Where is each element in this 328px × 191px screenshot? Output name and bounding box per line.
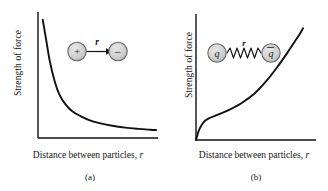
y-axis-label-b: Strength of force — [184, 10, 194, 120]
x-axis-label-var-a: r — [139, 150, 143, 160]
panel-caption-a: (a) — [8, 172, 172, 182]
plot-a — [0, 0, 164, 150]
x-axis-label-var-b: r — [305, 150, 309, 160]
panel-caption-b: (b) — [174, 172, 328, 182]
particle-negative-label-a: − — [115, 45, 122, 59]
inset-diagram-a: r + − — [0, 34, 164, 74]
particle-quark-label-b: q — [215, 48, 220, 59]
particle-positive-label-a: + — [74, 45, 80, 57]
x-axis-label-a: Distance between particles, r — [6, 150, 170, 160]
spring-connector-b — [227, 48, 261, 58]
x-axis-label-text-a: Distance between particles, — [33, 150, 137, 160]
separation-label-b: r — [242, 38, 246, 48]
particle-antiquark-label-b: q — [269, 48, 274, 59]
separation-label-a: r — [95, 37, 99, 47]
x-axis-label-b: Distance between particles, r — [172, 150, 328, 160]
panel-b: r q q Strength of force Distance between… — [164, 0, 328, 191]
y-axis-label-a: Strength of force — [13, 8, 23, 118]
figure-root: r + − Strength of force Distance between… — [0, 0, 328, 191]
x-axis-label-text-b: Distance between particles, — [199, 150, 303, 160]
panel-a: r + − Strength of force Distance between… — [0, 0, 164, 191]
